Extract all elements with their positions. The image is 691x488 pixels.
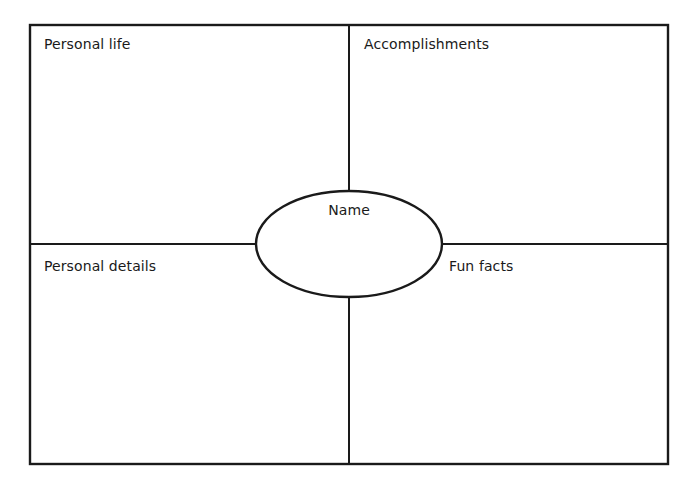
quadrant-accomplishments[interactable] <box>350 26 667 243</box>
quadrant-label-fun-facts: Fun facts <box>449 258 513 274</box>
quadrant-label-personal-details: Personal details <box>44 258 156 274</box>
quadrant-label-accomplishments: Accomplishments <box>364 36 489 52</box>
quadrant-personal-details[interactable] <box>31 245 348 463</box>
center-label-name: Name <box>328 202 370 218</box>
quadrant-fun-facts[interactable] <box>350 245 667 463</box>
quadrant-label-personal-life: Personal life <box>44 36 131 52</box>
quadrant-personal-life[interactable] <box>31 26 348 243</box>
